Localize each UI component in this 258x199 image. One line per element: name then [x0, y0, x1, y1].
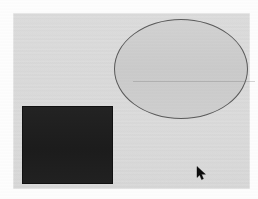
shape-rectangle[interactable] [22, 106, 113, 184]
drawing-canvas-surface[interactable] [13, 13, 250, 189]
screenshot-root [0, 0, 258, 199]
shape-ellipse[interactable] [114, 19, 248, 119]
